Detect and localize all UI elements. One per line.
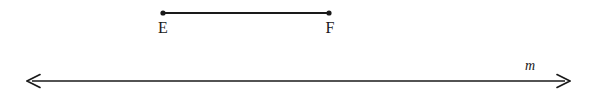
line-m-label: m xyxy=(525,58,535,73)
segment-endpoint-f-label: F xyxy=(326,19,335,36)
segment-endpoint-f-dot xyxy=(326,10,331,15)
segment-endpoint-e-label: E xyxy=(158,19,168,36)
figure-canvas: E F m xyxy=(0,0,589,99)
geometry-figure: E F m xyxy=(0,0,589,99)
segment-ef-group: E F xyxy=(158,10,334,36)
segment-endpoint-e-dot xyxy=(160,10,165,15)
line-m-group: m xyxy=(27,58,570,87)
